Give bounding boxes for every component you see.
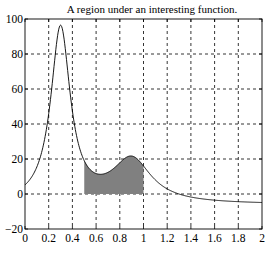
x-tick-label: 0.4 bbox=[65, 232, 80, 244]
x-tick-label: 0 bbox=[22, 232, 28, 244]
x-tick-label: 1.2 bbox=[160, 232, 175, 244]
y-tick-label: −20 bbox=[5, 223, 23, 235]
y-tick-label: 80 bbox=[12, 48, 24, 60]
grid-lines bbox=[25, 19, 262, 229]
x-tick-label: 0.2 bbox=[42, 232, 57, 244]
shaded-region bbox=[84, 156, 143, 194]
x-tick-label: 1 bbox=[141, 232, 147, 244]
x-tick-label: 1.6 bbox=[207, 232, 222, 244]
y-tick-label: 60 bbox=[12, 83, 24, 95]
x-tick-label: 0.8 bbox=[113, 232, 128, 244]
y-tick-label: 100 bbox=[6, 13, 24, 25]
y-tick-label: 0 bbox=[17, 188, 23, 200]
x-tick-label: 1.4 bbox=[184, 232, 199, 244]
x-tick-label: 2 bbox=[259, 232, 265, 244]
y-tick-label: 40 bbox=[12, 118, 24, 130]
y-tick-label: 20 bbox=[12, 153, 24, 165]
x-tick-label: 1.8 bbox=[231, 232, 246, 244]
chart-title: A region under an interesting function. bbox=[67, 3, 238, 15]
y-axis-tick-labels: −20020406080100 bbox=[5, 13, 23, 235]
chart: A region under an interesting function. … bbox=[0, 0, 268, 258]
x-axis-tick-labels: 00.20.40.60.811.21.41.61.82 bbox=[22, 232, 265, 244]
x-tick-label: 0.6 bbox=[89, 232, 104, 244]
